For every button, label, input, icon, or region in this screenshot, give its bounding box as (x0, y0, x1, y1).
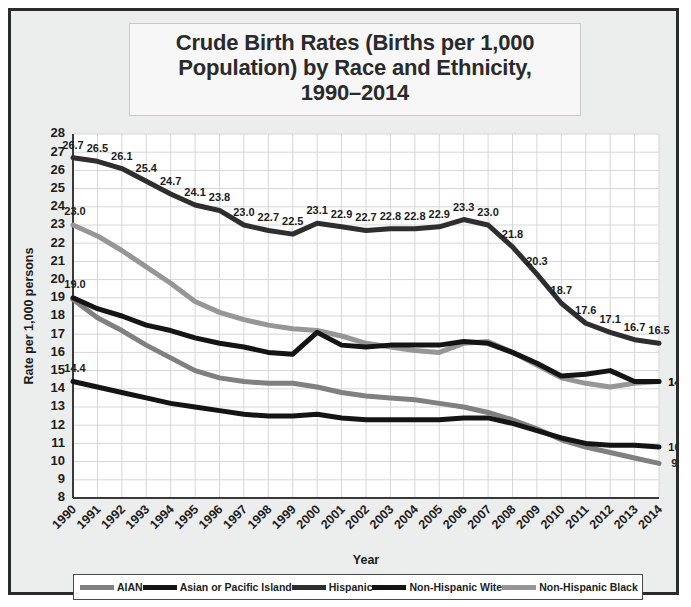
x-axis-tick-label: 1996 (196, 502, 226, 532)
legend-item-4[interactable]: Non-Hispanic Black (502, 581, 638, 593)
x-axis-tick-label: 2014 (636, 502, 666, 532)
data-label: 23.0 (477, 206, 498, 218)
y-axis-tick-label: 23 (51, 216, 65, 231)
data-label: 26.5 (87, 142, 108, 154)
data-label: 25.4 (136, 162, 158, 174)
x-axis-tick-label: 2000 (294, 502, 324, 532)
data-label-start: 23.0 (64, 205, 85, 217)
legend-item-label: Asian or Pacific Island (180, 581, 292, 593)
x-axis-tick-label: 1994 (147, 502, 177, 532)
y-axis-tick-label: 13 (51, 398, 65, 413)
data-label-end: 14.4 (668, 376, 676, 388)
title-line-1: Crude Birth Rates (Births per 1,000 (138, 30, 572, 55)
data-label: 22.9 (331, 208, 352, 220)
data-label: 26.7 (62, 139, 83, 151)
x-axis-tick-label: 2011 (563, 502, 592, 531)
y-axis-title: Rate per 1,000 persons (22, 248, 36, 385)
x-axis-tick-label: 1998 (245, 502, 275, 532)
legend-swatch-icon (80, 585, 114, 590)
x-axis-tick-label: 2007 (465, 502, 495, 532)
x-axis-tick-label: 2001 (318, 502, 348, 532)
data-label: 24.7 (160, 175, 181, 187)
legend-item-1[interactable]: Asian or Pacific Island (143, 581, 292, 593)
legend-item-3[interactable]: Non-Hispanic Wite (372, 581, 502, 593)
x-axis-tick-label: 2006 (440, 502, 470, 532)
data-label: 20.3 (526, 255, 547, 267)
x-axis-title: Year (353, 553, 380, 567)
x-axis-tick-label: 1990 (50, 502, 80, 532)
x-axis-tick-label: 2003 (367, 502, 397, 532)
legend-item-2[interactable]: Hispanic (292, 581, 373, 593)
y-axis-tick-label: 20 (51, 271, 65, 286)
y-axis-tick-label: 11 (51, 435, 65, 450)
y-axis-tick-label: 15 (51, 362, 65, 377)
data-label: 22.8 (404, 210, 425, 222)
data-label: 21.8 (502, 228, 523, 240)
legend-item-label: Non-Hispanic Wite (409, 581, 502, 593)
x-axis-tick-label: 1993 (123, 502, 153, 532)
data-label: 16.7 (624, 321, 645, 333)
y-axis-tick-label: 18 (51, 307, 65, 322)
y-axis-tick-label: 17 (51, 326, 65, 341)
x-axis-tick-label: 2005 (416, 502, 446, 532)
y-axis-tick-label: 26 (51, 162, 65, 177)
legend-item-label: Non-Hispanic Black (539, 581, 638, 593)
data-label-end: 10.8 (668, 441, 676, 453)
legend-item-label: Hispanic (329, 581, 373, 593)
x-axis-tick-label: 2004 (391, 502, 421, 532)
chart-title: Crude Birth Rates (Births per 1,000 Popu… (129, 23, 581, 116)
x-axis-tick-label: 1995 (172, 502, 202, 532)
data-label: 23.3 (453, 201, 474, 213)
x-axis-tick-label: 2013 (611, 502, 641, 532)
data-label: 18.7 (551, 284, 572, 296)
y-axis-tick-label: 25 (51, 180, 65, 195)
legend-swatch-icon (372, 585, 406, 590)
data-label: 23.1 (306, 204, 327, 216)
data-label: 26.1 (111, 150, 132, 162)
legend-swatch-icon (143, 585, 177, 590)
data-label: 22.7 (355, 211, 376, 223)
y-axis-tick-label: 16 (51, 344, 65, 359)
y-axis-tick-label: 14 (51, 380, 66, 395)
legend-swatch-icon (292, 585, 326, 590)
data-label-end: 9.9 (671, 457, 676, 469)
title-line-2: Population) by Race and Ethnicity, (138, 55, 572, 80)
legend-item-0[interactable]: AIAN (80, 581, 143, 593)
x-axis-tick-label: 2012 (587, 502, 617, 532)
y-axis-tick-label: 8 (58, 489, 65, 504)
legend-item-label: AIAN (117, 581, 143, 593)
data-label: 23.0 (233, 206, 254, 218)
data-label: 22.9 (429, 208, 450, 220)
title-line-3: 1990–2014 (138, 80, 572, 105)
legend-swatch-icon (502, 585, 536, 590)
y-axis-tick-label: 10 (51, 453, 65, 468)
x-axis-tick-label: 2010 (538, 502, 568, 532)
data-label: 22.7 (258, 211, 279, 223)
data-label: 16.5 (648, 324, 669, 336)
x-axis-tick-label: 1999 (269, 502, 299, 532)
y-axis-tick-label: 9 (58, 471, 65, 486)
x-axis-tick-label: 2008 (489, 502, 519, 532)
y-axis-tick-label: 21 (51, 253, 65, 268)
x-axis-tick-label: 1992 (98, 502, 128, 532)
y-axis-tick-label: 19 (51, 289, 65, 304)
data-label-start: 14.4 (64, 362, 86, 374)
x-axis-tick-label: 2009 (513, 502, 543, 532)
line-chart: 8910111213141516171819202122232425262728… (11, 116, 676, 571)
chart-plot-container: 8910111213141516171819202122232425262728… (11, 116, 676, 571)
chart-frame: Crude Birth Rates (Births per 1,000 Popu… (8, 8, 679, 595)
data-label: 22.8 (380, 210, 401, 222)
y-axis-tick-label: 22 (51, 235, 65, 250)
data-label-start: 19.0 (64, 278, 85, 290)
data-label: 23.8 (209, 191, 230, 203)
x-axis-tick-label: 1991 (74, 502, 104, 532)
data-label: 17.1 (599, 313, 620, 325)
x-axis-tick-label: 2002 (343, 502, 373, 532)
y-axis-tick-label: 12 (51, 417, 65, 432)
data-label: 22.5 (282, 215, 303, 227)
data-label: 24.1 (184, 186, 205, 198)
x-axis-tick-label: 1997 (220, 502, 250, 532)
chart-legend: AIANAsian or Pacific IslandHispanicNon-H… (73, 574, 643, 600)
data-label: 17.6 (575, 304, 596, 316)
